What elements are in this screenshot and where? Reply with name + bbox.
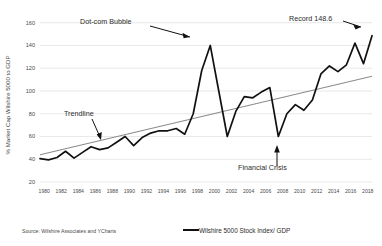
x-tick-2002: 2002 — [226, 188, 237, 194]
x-tick-1986: 1986 — [90, 188, 101, 194]
x-tick-2016: 2016 — [345, 188, 356, 194]
x-tick-1994: 1994 — [158, 188, 169, 194]
y-axis-title: % Market Cap Wilshire 5000 to GDP — [4, 56, 11, 155]
x-tick-1982: 1982 — [56, 188, 67, 194]
annotation-dot-com-bubble-label: Dot-com Bubble — [80, 17, 132, 26]
annotation-financial-crisis-label: Financial Crisis — [238, 163, 287, 172]
x-tick-1992: 1992 — [141, 188, 152, 194]
x-tick-2018: 2018 — [362, 188, 373, 194]
source-note: Source: Wilshire Associates and YCharts — [22, 228, 117, 234]
x-tick-1980: 1980 — [39, 188, 50, 194]
x-tick-2008: 2008 — [277, 188, 288, 194]
wilshire-gdp-line-chart: 20406080100120140160 1980198219841986198… — [0, 0, 382, 246]
x-tick-2010: 2010 — [294, 188, 305, 194]
y-tick-40: 40 — [29, 156, 35, 162]
x-tick-1988: 1988 — [107, 188, 118, 194]
x-tick-2012: 2012 — [311, 188, 322, 194]
y-tick-20: 20 — [29, 179, 35, 185]
x-tick-1998: 1998 — [192, 188, 203, 194]
y-tick-60: 60 — [29, 133, 35, 139]
y-tick-140: 140 — [26, 42, 35, 48]
x-tick-2000: 2000 — [209, 188, 220, 194]
y-tick-120: 120 — [26, 65, 35, 71]
chart-legend: Wilshire 5000 Stock Index/ GDP — [183, 227, 290, 234]
y-tick-160: 160 — [26, 20, 35, 26]
x-tick-2004: 2004 — [243, 188, 254, 194]
x-tick-1990: 1990 — [124, 188, 135, 194]
chart-background — [0, 0, 382, 246]
y-tick-100: 100 — [26, 88, 35, 94]
x-tick-2014: 2014 — [328, 188, 339, 194]
annotation-record-label: Record 148.6 — [289, 14, 332, 23]
legend-label-wilshire: Wilshire 5000 Stock Index/ GDP — [199, 227, 290, 234]
chart-container: 20406080100120140160 1980198219841986198… — [0, 0, 382, 246]
x-tick-1984: 1984 — [73, 188, 84, 194]
annotation-trendline-label: Trendline — [64, 109, 94, 118]
x-tick-2006: 2006 — [260, 188, 271, 194]
x-tick-1996: 1996 — [175, 188, 186, 194]
y-tick-80: 80 — [29, 111, 35, 117]
